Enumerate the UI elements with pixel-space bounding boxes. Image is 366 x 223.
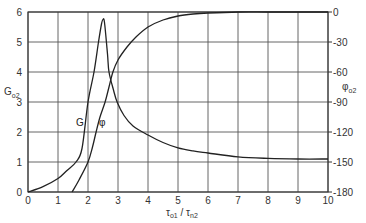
left-y-tick-label: 1 bbox=[16, 157, 22, 168]
right-y-tick-label: -180 bbox=[333, 187, 353, 198]
gain-curve-label: G bbox=[76, 117, 84, 128]
right-y-tick-label: 0 bbox=[333, 7, 339, 18]
left-y-tick-label: 2 bbox=[16, 127, 22, 138]
x-axis-label: τo1 / τn2 bbox=[166, 207, 198, 219]
x-tick-label: 7 bbox=[235, 195, 241, 206]
x-tick-label: 1 bbox=[55, 195, 61, 206]
right-y-axis-label: φo2 bbox=[342, 81, 356, 94]
left-y-tick-label: 6 bbox=[16, 7, 22, 18]
phase-curve-label: φ bbox=[99, 117, 106, 128]
right-y-tick-label: -90 bbox=[333, 97, 348, 108]
chart: 012345678910 0123456 0-30-60-90-120-150-… bbox=[0, 0, 366, 223]
left-y-tick-label: 0 bbox=[16, 187, 22, 198]
x-tick-label: 4 bbox=[145, 195, 151, 206]
x-tick-label: 5 bbox=[175, 195, 181, 206]
x-tick-label: 6 bbox=[205, 195, 211, 206]
x-tick-label: 2 bbox=[85, 195, 91, 206]
left-y-tick-label: 4 bbox=[16, 67, 22, 78]
right-y-tick-label: -120 bbox=[333, 127, 353, 138]
x-tick-label: 8 bbox=[265, 195, 271, 206]
right-y-tick-label: -60 bbox=[333, 67, 348, 78]
x-tick-label: 0 bbox=[25, 195, 31, 206]
x-tick-label: 9 bbox=[295, 195, 301, 206]
left-y-axis-label: Go2 bbox=[4, 86, 20, 99]
x-tick-label: 3 bbox=[115, 195, 121, 206]
left-y-tick-label: 5 bbox=[16, 37, 22, 48]
right-y-tick-label: -30 bbox=[333, 37, 348, 48]
right-y-axis-ticks: 0-30-60-90-120-150-180 bbox=[328, 7, 353, 198]
right-y-tick-label: -150 bbox=[333, 157, 353, 168]
x-axis-ticks: 012345678910 bbox=[25, 195, 334, 206]
left-y-axis-ticks: 0123456 bbox=[16, 7, 22, 198]
